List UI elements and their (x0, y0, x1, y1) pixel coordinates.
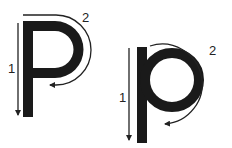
lowercase-p-bowl (145, 53, 199, 107)
lowercase-p-group: 1 2 (119, 43, 216, 143)
stroke-2-label: 2 (209, 43, 216, 58)
stroke-1-label: 1 (8, 61, 15, 76)
uppercase-p-group: 1 2 (8, 10, 91, 117)
letter-formation-diagram: 1 2 1 2 (0, 0, 232, 148)
stroke-2-label: 2 (82, 10, 89, 25)
stroke-1-label: 1 (119, 90, 126, 105)
uppercase-p-glyph (23, 21, 84, 117)
